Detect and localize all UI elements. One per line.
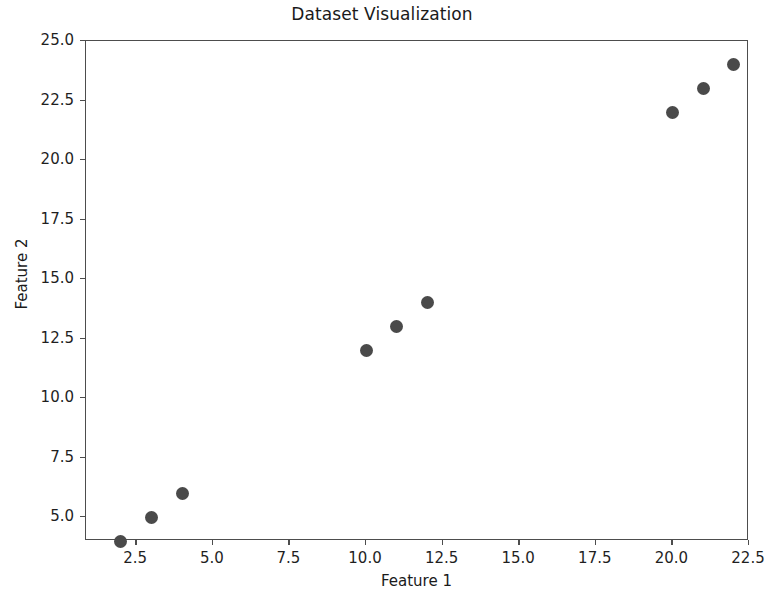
x-tick-mark — [442, 540, 443, 545]
data-point — [145, 511, 158, 524]
y-tick-mark — [80, 278, 85, 279]
x-tick-label: 2.5 — [100, 549, 170, 567]
x-tick-mark — [595, 540, 596, 545]
x-tick-mark — [288, 540, 289, 545]
y-tick-label: 22.5 — [4, 91, 74, 109]
x-tick-mark — [748, 540, 749, 545]
data-point — [176, 487, 189, 500]
x-tick-mark — [212, 540, 213, 545]
x-tick-label: 7.5 — [253, 549, 323, 567]
y-tick-mark — [80, 516, 85, 517]
y-tick-mark — [80, 40, 85, 41]
x-tick-mark — [135, 540, 136, 545]
y-tick-mark — [80, 219, 85, 220]
y-tick-mark — [80, 457, 85, 458]
data-point — [697, 82, 710, 95]
x-tick-label: 15.0 — [483, 549, 553, 567]
y-tick-label: 25.0 — [4, 31, 74, 49]
data-point — [421, 296, 434, 309]
x-tick-label: 5.0 — [177, 549, 247, 567]
y-tick-mark — [80, 397, 85, 398]
y-tick-mark — [80, 338, 85, 339]
x-axis-label: Feature 1 — [85, 572, 748, 590]
x-tick-label: 20.0 — [636, 549, 706, 567]
data-point — [114, 535, 127, 548]
chart-title: Dataset Visualization — [0, 4, 764, 24]
x-tick-label: 22.5 — [713, 549, 769, 567]
data-point — [360, 344, 373, 357]
scatter-points-layer — [86, 41, 747, 539]
plot-area — [85, 40, 748, 540]
data-point — [727, 58, 740, 71]
x-tick-mark — [671, 540, 672, 545]
data-point — [390, 320, 403, 333]
y-axis-label: Feature 2 — [13, 224, 31, 324]
y-tick-label: 20.0 — [4, 150, 74, 168]
y-tick-label: 12.5 — [4, 329, 74, 347]
y-tick-label: 7.5 — [4, 448, 74, 466]
x-tick-mark — [518, 540, 519, 545]
y-tick-mark — [80, 159, 85, 160]
y-tick-mark — [80, 100, 85, 101]
x-tick-label: 10.0 — [330, 549, 400, 567]
x-tick-label: 12.5 — [407, 549, 477, 567]
y-tick-label: 10.0 — [4, 388, 74, 406]
x-tick-label: 17.5 — [560, 549, 630, 567]
data-point — [666, 106, 679, 119]
x-tick-mark — [365, 540, 366, 545]
y-tick-label: 5.0 — [4, 507, 74, 525]
